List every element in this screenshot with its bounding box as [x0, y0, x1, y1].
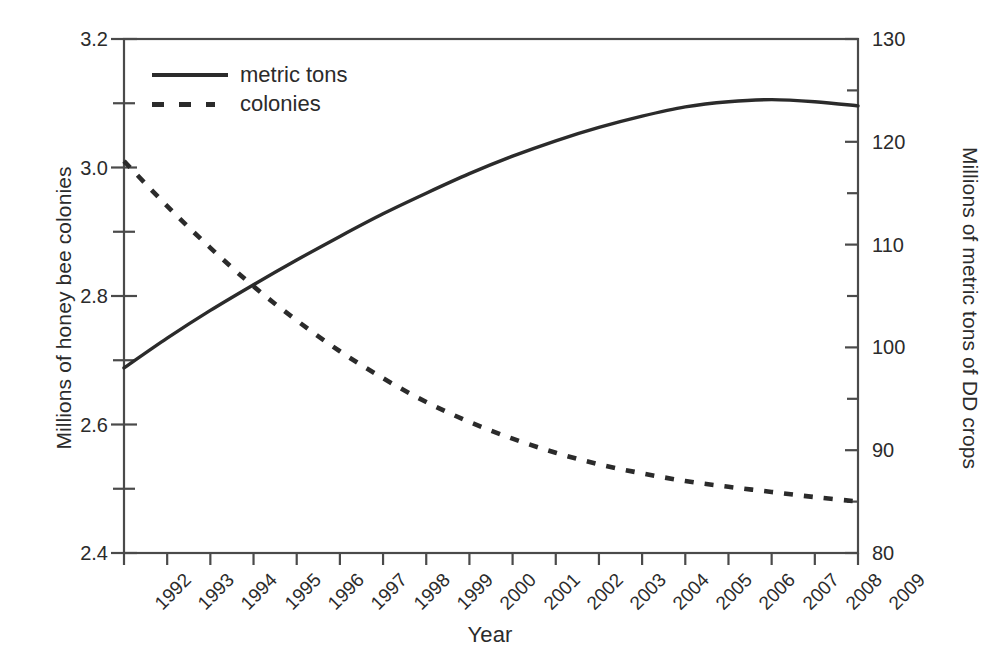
- plot-area: [0, 0, 990, 669]
- chart-figure: Millions of honey bee colonies Millions …: [0, 0, 990, 669]
- series-line-colonies: [124, 161, 858, 502]
- legend-item-metric-tons: metric tons: [152, 60, 348, 89]
- legend-item-colonies: colonies: [152, 89, 348, 118]
- legend-swatch-solid-icon: [152, 68, 228, 82]
- legend-label-colonies: colonies: [240, 93, 321, 115]
- legend-swatch-dashed-icon: [152, 97, 228, 111]
- legend-label-metric-tons: metric tons: [240, 64, 348, 86]
- series-line-metric-tons: [124, 100, 858, 368]
- chart-legend: metric tons colonies: [152, 60, 348, 118]
